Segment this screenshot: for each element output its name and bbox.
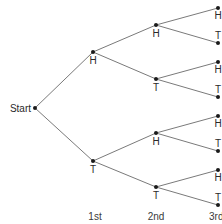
node-label-1st-h: H: [89, 55, 96, 66]
leaf-label-hth: H: [214, 64, 221, 75]
edge-h-ht: [93, 52, 156, 79]
level1-nodes: H T: [89, 50, 96, 175]
node-dot: [216, 203, 220, 207]
node-label-2nd-th: H: [152, 136, 159, 147]
leaf-label-tth: H: [214, 172, 221, 183]
leaf-label-hhh: H: [214, 10, 221, 21]
node-label-2nd-tt: T: [153, 190, 159, 201]
leaf-label-htt: T: [215, 84, 221, 95]
edge-th-thh: [156, 116, 218, 133]
edge-start-h: [35, 52, 93, 108]
node-label-2nd-ht: T: [153, 82, 159, 93]
leaf-label-ttt: T: [215, 192, 221, 203]
edge-tt-tth: [156, 170, 218, 187]
level3-nodes: H T H T H T H T: [214, 6, 221, 207]
probability-tree-diagram: Start H T H T H T H T H T H T H T: [0, 0, 222, 224]
node-dot: [154, 185, 158, 189]
leaf-label-tht: T: [215, 138, 221, 149]
node-dot: [154, 23, 158, 27]
node-dot: [216, 149, 220, 153]
column-labels: 1st 2nd 3rd: [88, 211, 222, 222]
edge-hh-hhh: [156, 8, 218, 25]
leaf-label-hht: T: [215, 30, 221, 41]
node-dot: [154, 131, 158, 135]
node-dot: [91, 159, 95, 163]
edge-t-th: [93, 133, 156, 161]
node-dot: [216, 41, 220, 45]
node-dot: [154, 77, 158, 81]
node-label-1st-t: T: [90, 164, 96, 175]
root-label: Start: [10, 103, 31, 114]
edge-t-tt: [93, 161, 156, 187]
column-label-2nd: 2nd: [148, 211, 165, 222]
edge-start-t: [35, 108, 93, 161]
leaf-label-thh: H: [214, 118, 221, 129]
node-dot: [91, 50, 95, 54]
edge-ht-hth: [156, 62, 218, 79]
edge-th-tht: [156, 133, 218, 151]
column-label-3rd: 3rd: [209, 211, 222, 222]
node-dot: [33, 106, 37, 110]
level2-nodes: H T H T: [152, 23, 159, 201]
edge-h-hh: [93, 25, 156, 52]
edge-tt-ttt: [156, 187, 218, 205]
edge-ht-htt: [156, 79, 218, 97]
column-label-1st: 1st: [88, 211, 102, 222]
node-label-2nd-hh: H: [152, 28, 159, 39]
edges: [35, 8, 218, 205]
edge-hh-hht: [156, 25, 218, 43]
node-dot: [216, 95, 220, 99]
root-node: Start: [10, 103, 37, 114]
